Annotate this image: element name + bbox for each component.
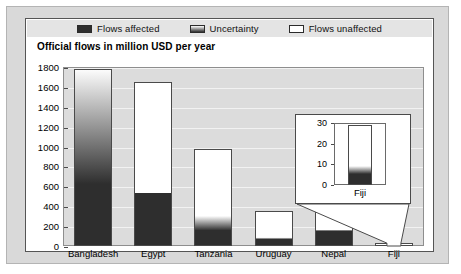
y-tick-label: 1600 [38, 81, 59, 92]
y-tick-label: 0 [54, 241, 59, 252]
solid-white-icon [289, 25, 304, 33]
x-axis: BangladeshEgyptTanzaniaUruguayNepalFiji [63, 248, 424, 262]
inset-y-tick-label: 0 [322, 180, 327, 190]
chart-legend: Flows affected Uncertainty Flows unaffec… [27, 20, 432, 37]
x-tick-label-tanzania: Tanzania [194, 248, 232, 259]
inset-y-tick-mark [331, 164, 334, 165]
chart-title: Official flows in million USD per year [37, 41, 215, 52]
solid-dark-icon [77, 25, 92, 33]
chart-card: Flows affected Uncertainty Flows unaffec… [25, 18, 434, 252]
y-tick-label: 1400 [38, 101, 59, 112]
legend-label-flows-unaffected: Flows unaffected [309, 23, 382, 34]
inset-bar-fiji [348, 125, 372, 185]
bar-fiji [375, 243, 413, 246]
y-tick-label: 200 [43, 221, 59, 232]
inset-y-tick-label: 10 [317, 159, 327, 169]
bar-nepal [315, 211, 353, 246]
x-tick-label-egypt: Egypt [141, 248, 165, 259]
inset-y-tick-mark [331, 185, 334, 186]
inset-y-tick-mark [331, 123, 334, 124]
y-tick-label: 1800 [38, 62, 59, 73]
bar-tanzania [194, 149, 232, 246]
legend-item-flows-unaffected: Flows unaffected [289, 23, 382, 34]
legend-label-uncertainty: Uncertainty [210, 23, 259, 34]
figure-outer-frame: Flows affected Uncertainty Flows unaffec… [6, 6, 449, 264]
bar-bangladesh [74, 69, 112, 246]
x-tick-label-uruguay: Uruguay [256, 248, 292, 259]
x-tick-label-fiji: Fiji [388, 248, 400, 259]
inset-y-tick-mark [331, 144, 334, 145]
legend-label-flows-affected: Flows affected [97, 23, 159, 34]
y-tick-label: 800 [43, 161, 59, 172]
x-tick-label-nepal: Nepal [321, 248, 346, 259]
y-tick-label: 1200 [38, 121, 59, 132]
legend-item-uncertainty: Uncertainty [190, 23, 259, 34]
x-tick-label-bangladesh: Bangladesh [68, 248, 118, 259]
y-axis: 020040060080010001200140016001800 [26, 67, 59, 246]
y-tick-label: 600 [43, 181, 59, 192]
bar-egypt [134, 82, 172, 246]
inset-y-tick-label: 30 [317, 118, 327, 128]
y-tick-label: 400 [43, 201, 59, 212]
inset-x-tick-label-fiji: Fiji [354, 187, 366, 198]
inset-panel-fiji: 0102030Fiji [295, 114, 411, 204]
legend-item-flows-affected: Flows affected [77, 23, 159, 34]
inset-y-tick-label: 20 [317, 139, 327, 149]
gradient-icon [190, 25, 205, 33]
y-tick-label: 1000 [38, 141, 59, 152]
bar-uruguay [255, 211, 293, 246]
